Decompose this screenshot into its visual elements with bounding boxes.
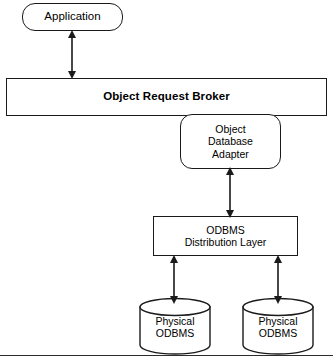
- bottom-divider: [0, 355, 333, 356]
- node-object-request-broker-label: Object Request Broker: [99, 90, 234, 104]
- node-odbms-distribution-layer-label: ODBMS Distribution Layer: [181, 224, 271, 249]
- arrow-distribution-layer-to-physical-odbms-right: [270, 255, 286, 304]
- node-physical-odbms-left: Physical ODBMS: [139, 298, 211, 354]
- node-object-request-broker: Object Request Broker: [6, 78, 327, 116]
- arrow-distribution-layer-to-physical-odbms-left: [166, 255, 182, 304]
- node-object-database-adapter: Object Database Adapter: [180, 114, 281, 169]
- arrow-adapter-to-distribution-layer: [222, 167, 238, 218]
- node-physical-odbms-right: Physical ODBMS: [242, 298, 314, 354]
- node-application-label: Application: [40, 10, 104, 24]
- diagram-canvas: Application Object Request Broker Object…: [0, 0, 333, 362]
- arrow-application-to-orb: [64, 30, 80, 79]
- node-object-database-adapter-label: Object Database Adapter: [204, 123, 257, 160]
- node-application: Application: [22, 3, 123, 31]
- node-odbms-distribution-layer: ODBMS Distribution Layer: [153, 216, 298, 256]
